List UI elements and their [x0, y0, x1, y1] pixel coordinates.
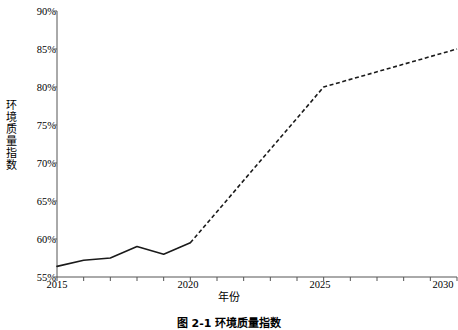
series-line-historical — [57, 243, 190, 267]
y-axis-ticks — [53, 11, 57, 277]
axis-lines — [57, 11, 457, 277]
series-line-forecast — [190, 49, 457, 243]
figure-caption: 图 2-1 环境质量指数 — [0, 314, 458, 330]
x-axis-title: 年份 — [0, 288, 458, 304]
x-axis-ticks — [57, 277, 457, 281]
